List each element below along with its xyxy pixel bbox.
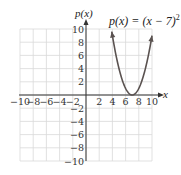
y-tick-label: 8: [78, 37, 84, 48]
x-tick-label: 6: [123, 96, 129, 107]
x-axis-label: x: [162, 88, 168, 100]
y-tick-label: −10: [64, 156, 84, 167]
x-tick-label: −6: [39, 96, 53, 107]
x-tick-label: 10: [146, 96, 158, 107]
parabola-curve: [112, 32, 152, 95]
y-tick-label: −4: [70, 116, 84, 127]
x-tick-label: 2: [96, 96, 102, 107]
y-tick-label: 4: [78, 63, 84, 74]
y-tick-label: −6: [70, 129, 84, 140]
x-tick-label: −8: [26, 96, 40, 107]
y-tick-label: −2: [70, 103, 84, 114]
axes: [19, 19, 164, 161]
curve-end-arrows: [110, 32, 153, 42]
x-tick-label: 8: [136, 96, 142, 107]
x-tick-label: 4: [109, 96, 115, 107]
y-axis-arrow-icon: [84, 19, 89, 25]
y-axis-label: p(x): [74, 7, 93, 20]
chart-title: p(x) = (x − 7)2: [108, 13, 180, 28]
y-tick-label: 10: [72, 24, 84, 35]
x-tick-label: −4: [53, 96, 67, 107]
curve-arrow-icon: [148, 36, 153, 42]
function-graph: −10−8−6−4−2246810108642−2−4−6−8−10 p(x) …: [0, 0, 181, 175]
y-tick-label: 2: [78, 76, 84, 87]
y-tick-label: −8: [70, 142, 84, 153]
y-tick-label: 6: [78, 50, 84, 61]
